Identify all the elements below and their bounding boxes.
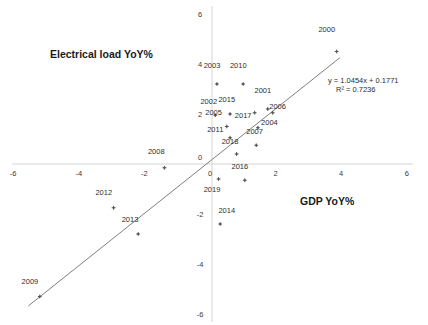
data-point-label: 2007 <box>246 127 263 136</box>
data-point-label: 2001 <box>254 86 271 95</box>
data-points <box>38 50 339 299</box>
marker-dot <box>163 167 165 169</box>
data-point-label: 2004 <box>261 118 278 127</box>
x-tick-label: 4 <box>339 169 343 178</box>
trendline-equation: y = 1.0454x + 0.1771 <box>328 76 398 85</box>
x-tick-label: -4 <box>75 169 82 178</box>
data-point-label: 2016 <box>232 162 249 171</box>
trendline <box>28 58 340 306</box>
x-tick-label: -6 <box>10 169 17 178</box>
data-point <box>235 152 239 156</box>
data-point-label: 2012 <box>95 188 112 197</box>
data-point <box>225 125 229 129</box>
data-point-labels: 2000200120022003200420052006200720082009… <box>22 25 336 286</box>
data-point-label: 2018 <box>222 137 239 146</box>
x-tick-label: 0 <box>208 169 212 178</box>
data-point-label: 2008 <box>148 147 165 156</box>
y-tick-label: 4 <box>198 60 202 69</box>
data-point-label: 2005 <box>205 108 222 117</box>
y-tick-label: -2 <box>197 210 204 219</box>
marker-dot <box>242 83 244 85</box>
y-tick-label: 2 <box>198 110 202 119</box>
marker-dot <box>137 233 139 235</box>
data-point <box>335 50 339 54</box>
x-tick-label: 2 <box>274 169 278 178</box>
data-point <box>218 222 222 226</box>
y-axis-title: Electrical load YoY% <box>50 48 154 60</box>
data-point <box>112 206 116 210</box>
marker-dot <box>226 126 228 128</box>
data-point <box>163 166 167 170</box>
marker-dot <box>272 112 274 114</box>
data-point-label: 2006 <box>269 102 286 111</box>
data-point-label: 2009 <box>22 277 39 286</box>
data-point-label: 2017 <box>235 111 252 120</box>
data-point <box>228 112 232 116</box>
data-point <box>136 232 140 236</box>
data-point <box>253 111 257 115</box>
data-point <box>217 177 221 181</box>
data-point <box>243 178 247 182</box>
marker-dot <box>216 83 218 85</box>
x-tick-label: -2 <box>141 169 148 178</box>
data-point-label: 2010 <box>230 61 247 70</box>
x-tick-label: 6 <box>405 169 409 178</box>
marker-dot <box>219 223 221 225</box>
data-point-label: 2000 <box>318 25 335 34</box>
marker-dot <box>236 153 238 155</box>
data-point-label: 2002 <box>200 97 217 106</box>
marker-dot <box>113 207 115 209</box>
chart-plot-area: -6-4-20246642-2-4-60 2000200120022003200… <box>0 0 428 325</box>
data-point-label: 2015 <box>218 95 235 104</box>
y-tick-label: -6 <box>197 310 204 319</box>
trendline-path <box>28 58 340 306</box>
data-point-label: 2014 <box>218 206 235 215</box>
marker-dot <box>254 112 256 114</box>
data-point <box>254 143 258 147</box>
marker-dot <box>229 113 231 115</box>
marker-dot <box>218 178 220 180</box>
data-point <box>215 82 219 86</box>
data-point-label: 2019 <box>204 185 221 194</box>
scatter-chart: -6-4-20246642-2-4-60 2000200120022003200… <box>0 0 428 325</box>
data-point <box>271 111 275 115</box>
data-point <box>241 82 245 86</box>
data-point-label: 2013 <box>122 215 139 224</box>
marker-dot <box>39 296 41 298</box>
y-tick-label: -4 <box>197 260 204 269</box>
marker-dot <box>255 144 257 146</box>
data-point-label: 2003 <box>204 61 221 70</box>
data-point-label: 2011 <box>207 125 223 134</box>
y-tick-label: 6 <box>198 10 202 19</box>
marker-dot <box>336 51 338 53</box>
trendline-r2: R² = 0.7236 <box>336 85 375 94</box>
marker-dot <box>244 179 246 181</box>
x-axis-title: GDP YoY% <box>300 195 355 207</box>
y-tick-label: 0 <box>198 153 202 162</box>
